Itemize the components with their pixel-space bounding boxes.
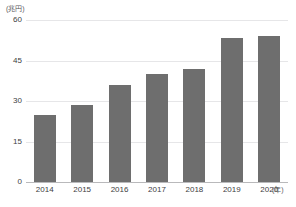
bar-2019[interactable] <box>221 38 243 182</box>
x-tick-label-2017: 2017 <box>138 186 175 194</box>
bar-2014[interactable] <box>34 115 56 183</box>
x-axis-labels: 2014201520162017201820192020 <box>26 186 288 194</box>
bar-slot-2018 <box>176 20 213 182</box>
bar-slot-2020 <box>251 20 288 182</box>
y-tick-label-30: 30 <box>6 97 22 105</box>
x-tick-label-2014: 2014 <box>26 186 63 194</box>
bar-slot-2019 <box>213 20 250 182</box>
x-tick-label-2016: 2016 <box>101 186 138 194</box>
y-tick-label-0: 0 <box>6 178 22 186</box>
bars-group <box>26 20 288 182</box>
bar-2020[interactable] <box>258 36 280 182</box>
gridline-0 <box>26 182 288 183</box>
bar-chart: (兆円) 015304560 2014201520162017201820192… <box>0 0 296 207</box>
bar-2015[interactable] <box>71 105 93 182</box>
y-tick-label-15: 15 <box>6 138 22 146</box>
plot-area <box>26 20 288 182</box>
y-axis-unit-label: (兆円) <box>6 3 25 13</box>
x-tick-label-2019: 2019 <box>213 186 250 194</box>
y-tick-label-45: 45 <box>6 57 22 65</box>
bar-slot-2014 <box>26 20 63 182</box>
bar-slot-2015 <box>63 20 100 182</box>
x-axis-unit-label: (年) <box>272 186 284 193</box>
bar-2017[interactable] <box>146 74 168 182</box>
x-tick-label-2015: 2015 <box>63 186 100 194</box>
bar-2018[interactable] <box>183 69 205 182</box>
bar-2016[interactable] <box>109 85 131 182</box>
y-tick-label-60: 60 <box>6 16 22 24</box>
bar-slot-2016 <box>101 20 138 182</box>
bar-slot-2017 <box>138 20 175 182</box>
x-tick-label-2018: 2018 <box>176 186 213 194</box>
